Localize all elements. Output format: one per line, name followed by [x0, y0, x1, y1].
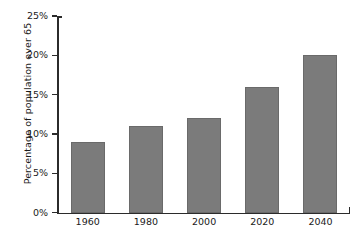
y-axis-tick-label: 25%: [4, 11, 48, 21]
bar-slot: [59, 16, 117, 213]
bar[interactable]: [187, 118, 221, 212]
y-axis-tick-label: 15%: [4, 90, 48, 100]
y-axis-tick-label: 0%: [4, 208, 48, 218]
y-axis-tick-label: 5%: [4, 168, 48, 178]
y-axis-tick-label: 10%: [4, 129, 48, 139]
bar[interactable]: [71, 142, 105, 213]
bar[interactable]: [129, 126, 163, 212]
plot-area: [59, 16, 350, 213]
bar-slot: [175, 16, 233, 213]
bar-chart: Percentage of population over 65 0%5%10%…: [0, 0, 359, 241]
bar-slot: [291, 16, 349, 213]
bar[interactable]: [245, 87, 279, 213]
y-axis-tick: [52, 173, 57, 174]
y-axis-tick: [52, 55, 57, 56]
y-axis-tick-label: 20%: [4, 50, 48, 60]
y-axis-tick: [52, 94, 57, 95]
y-axis-tick: [52, 15, 57, 16]
x-axis-tick-label: 2040: [286, 217, 356, 227]
x-axis-line: [57, 213, 350, 215]
y-axis-tick: [52, 212, 57, 213]
bar-slot: [117, 16, 175, 213]
y-axis-tick: [52, 133, 57, 134]
bar-slot: [233, 16, 291, 213]
bar[interactable]: [303, 55, 337, 212]
